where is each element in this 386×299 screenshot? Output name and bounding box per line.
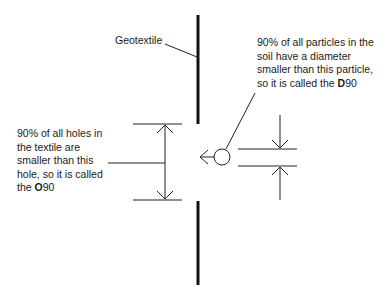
particle-leader-line bbox=[226, 93, 255, 149]
o90-note-line: hole, so it is called bbox=[17, 168, 103, 182]
d90-note-text: so it is called the bbox=[257, 77, 338, 89]
particle bbox=[200, 93, 255, 165]
o90-note-line: 90% of all holes in bbox=[17, 127, 103, 141]
o90-term-letter: O bbox=[35, 181, 43, 193]
d90-term-number: 90 bbox=[345, 77, 357, 89]
d90-note-line: 90% of all particles in the bbox=[257, 36, 374, 50]
o90-note: 90% of all holes in the textile are smal… bbox=[17, 127, 103, 195]
d90-note-line: soil have a diameter bbox=[257, 50, 374, 64]
o90-note-line: smaller than this bbox=[17, 154, 103, 168]
d90-term-letter: D bbox=[338, 77, 346, 89]
d90-note-line: so it is called the D90 bbox=[257, 77, 374, 91]
o90-note-line: the textile are bbox=[17, 141, 103, 155]
geotextile-leader-line bbox=[165, 44, 197, 57]
d90-note-line: smaller than this particle, bbox=[257, 63, 374, 77]
opening-dimension bbox=[108, 124, 182, 200]
particle-dimension bbox=[238, 115, 297, 200]
particle-circle bbox=[214, 149, 230, 165]
geotextile-label: Geotextile bbox=[115, 34, 162, 48]
o90-note-text: the bbox=[17, 181, 35, 193]
o90-term-number: 90 bbox=[43, 181, 55, 193]
d90-note: 90% of all particles in the soil have a … bbox=[257, 36, 374, 90]
o90-note-line: the O90 bbox=[17, 181, 103, 195]
